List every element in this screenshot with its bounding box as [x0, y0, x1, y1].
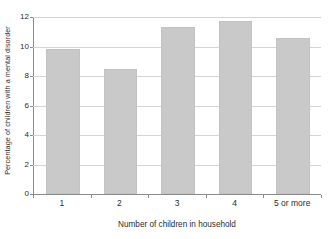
y-axis-tick-labels: 024681012: [11, 17, 29, 195]
y-axis-tick-label: 2: [13, 161, 29, 169]
y-axis-tick-label: 0: [13, 190, 29, 198]
bar[interactable]: [276, 38, 309, 194]
x-axis-tick-label: 4: [232, 199, 237, 208]
y-axis-tick-mark: [30, 47, 33, 48]
x-axis-tick-labels: 12345 or more: [33, 199, 321, 213]
x-axis-tick-label: 1: [59, 199, 64, 208]
bar-series: [34, 17, 321, 195]
y-axis-tick-mark: [30, 135, 33, 136]
y-axis-tick-mark: [30, 106, 33, 107]
bar[interactable]: [46, 49, 79, 194]
x-axis-tick-mark: [91, 195, 92, 198]
bar[interactable]: [161, 27, 194, 194]
y-axis-tick-label: 8: [13, 72, 29, 80]
x-axis-tick-mark: [321, 195, 322, 198]
x-axis-tick-mark: [148, 195, 149, 198]
y-axis-tick-label: 12: [13, 13, 29, 21]
bar[interactable]: [219, 21, 252, 194]
bar-chart-figure: Percentage of children with a mental dis…: [0, 0, 330, 239]
x-axis-tick-label: 5 or more: [274, 199, 310, 208]
y-axis-tick-mark: [30, 17, 33, 18]
y-axis-tick-label: 4: [13, 131, 29, 139]
plot-area: [33, 17, 321, 195]
x-axis-tick-mark: [263, 195, 264, 198]
y-axis-tick-label: 6: [13, 102, 29, 110]
x-axis-tick-label: 2: [117, 199, 122, 208]
y-axis-tick-mark: [30, 76, 33, 77]
y-axis-tick-label: 10: [13, 43, 29, 51]
x-axis-title: Number of children in household: [33, 221, 321, 229]
x-axis-tick-mark: [33, 195, 34, 198]
y-axis-tick-mark: [30, 165, 33, 166]
bar[interactable]: [104, 69, 137, 194]
x-axis-tick-mark: [206, 195, 207, 198]
x-axis-tick-label: 3: [175, 199, 180, 208]
